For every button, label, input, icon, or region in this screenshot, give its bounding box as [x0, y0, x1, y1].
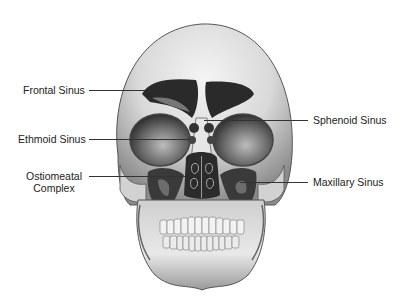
leader-line-sphenoid — [204, 120, 308, 121]
label-ostiomeatal-line1: Ostiomeatal — [26, 170, 82, 182]
leader-line-maxillary — [240, 182, 308, 183]
label-ethmoid-sinus: Ethmoid Sinus — [18, 133, 86, 145]
label-sphenoid-sinus: Sphenoid Sinus — [313, 114, 387, 126]
label-ostiomeatal-line2: Complex — [26, 182, 82, 194]
label-frontal-sinus: Frontal Sinus — [23, 84, 85, 96]
label-maxillary-sinus: Maxillary Sinus — [313, 176, 384, 188]
leader-line-ethmoid — [89, 139, 189, 140]
leader-line-ostiomeatal — [89, 176, 185, 177]
leader-line-frontal — [89, 90, 145, 91]
skull-illustration — [0, 0, 401, 301]
label-ostiomeatal-complex: Ostiomeatal Complex — [26, 170, 82, 194]
skull-diagram: Frontal Sinus Ethmoid Sinus Ostiomeatal … — [0, 0, 401, 301]
